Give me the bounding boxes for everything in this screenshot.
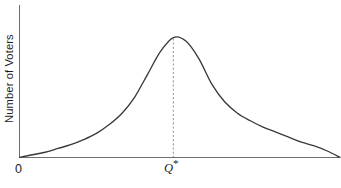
single-peaked-distribution-figure: Number of Voters 0 Q*	[0, 0, 341, 188]
q-star-tick-label: Q*	[164, 162, 179, 175]
plot-area	[0, 0, 341, 188]
q-star-symbol: Q	[164, 161, 173, 175]
q-star-asterisk: *	[173, 157, 179, 169]
voter-distribution-curve	[20, 37, 341, 157]
origin-tick-label: 0	[15, 163, 22, 176]
